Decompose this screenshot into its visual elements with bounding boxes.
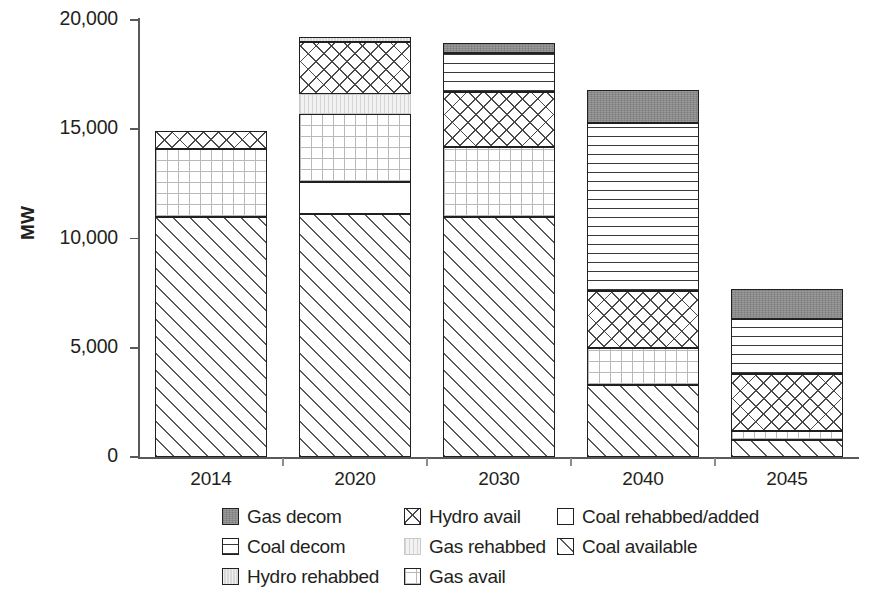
legend-item-gas-decom[interactable]: Gas decom bbox=[222, 503, 341, 530]
legend-swatch-icon bbox=[222, 538, 239, 555]
stacked-bar-chart: MW 05,00010,00015,00020,000 201420202030… bbox=[0, 0, 873, 593]
bar-segment-gas-decom bbox=[587, 90, 699, 123]
bar-segment-gas-rehabbed bbox=[299, 94, 411, 114]
y-axis-tick bbox=[130, 19, 139, 21]
bar-segment-gas-avail bbox=[155, 149, 267, 217]
y-axis-tick-label: 5,000 bbox=[8, 335, 118, 358]
x-axis-tick bbox=[426, 458, 427, 466]
legend-label: Coal decom bbox=[247, 536, 345, 558]
legend-item-hydro-rehabbed[interactable]: Hydro rehabbed bbox=[222, 563, 379, 590]
legend-swatch-icon bbox=[404, 508, 421, 525]
legend-label: Gas rehabbed bbox=[429, 536, 546, 558]
bar-segment-hydro-avail bbox=[731, 374, 843, 431]
x-axis-tick-label: 2040 bbox=[588, 468, 698, 490]
legend-item-coal-decom[interactable]: Coal decom bbox=[222, 533, 345, 560]
legend-item-hydro-avail[interactable]: Hydro avail bbox=[404, 503, 521, 530]
legend-swatch-icon bbox=[222, 568, 239, 585]
y-axis-tick bbox=[130, 456, 139, 458]
bar-segment-coal-decom bbox=[587, 123, 699, 291]
bar-segment-gas-decom bbox=[731, 289, 843, 320]
bar-segment-hydro-avail bbox=[587, 291, 699, 348]
bar-segment-gas-decom bbox=[443, 43, 555, 53]
y-axis-tick-label: 0 bbox=[8, 444, 118, 467]
legend-label: Hydro rehabbed bbox=[247, 566, 379, 588]
bar-segment-coal-decom bbox=[443, 53, 555, 92]
legend-label: Coal available bbox=[582, 536, 697, 558]
bar-segment-coal-decom bbox=[731, 319, 843, 374]
legend-swatch-icon bbox=[557, 538, 574, 555]
legend-label: Gas avail bbox=[429, 566, 506, 588]
bar-segment-gas-avail bbox=[731, 431, 843, 440]
bar-segment-gas-avail bbox=[587, 348, 699, 385]
bar-segment-coal-available bbox=[587, 385, 699, 457]
bar-segment-coal-available bbox=[155, 217, 267, 457]
bar-2030 bbox=[443, 20, 555, 457]
legend-swatch-icon bbox=[222, 508, 239, 525]
bar-segment-coal-rehabbed-added bbox=[299, 182, 411, 215]
y-axis-tick bbox=[130, 238, 139, 240]
legend-item-coal-available[interactable]: Coal available bbox=[557, 533, 697, 560]
x-axis-tick-label: 2030 bbox=[444, 468, 554, 490]
x-axis-tick-label: 2045 bbox=[732, 468, 842, 490]
bar-segment-gas-avail bbox=[443, 147, 555, 217]
bar-segment-hydro-rehabbed bbox=[299, 37, 411, 41]
legend-label: Gas decom bbox=[247, 506, 341, 528]
bar-segment-hydro-avail bbox=[299, 42, 411, 94]
legend-label: Hydro avail bbox=[429, 506, 521, 528]
x-axis-tick-label: 2020 bbox=[300, 468, 410, 490]
legend-swatch-icon bbox=[404, 538, 421, 555]
legend-item-coal-rehabbed-added[interactable]: Coal rehabbed/added bbox=[557, 503, 759, 530]
bar-segment-coal-available bbox=[443, 217, 555, 457]
x-axis-tick-label: 2014 bbox=[156, 468, 266, 490]
x-axis-line bbox=[138, 457, 859, 459]
bar-2014 bbox=[155, 20, 267, 457]
legend-label: Coal rehabbed/added bbox=[582, 506, 759, 528]
legend-swatch-icon bbox=[557, 508, 574, 525]
y-axis-tick-label: 20,000 bbox=[8, 7, 118, 30]
legend-item-gas-rehabbed[interactable]: Gas rehabbed bbox=[404, 533, 546, 560]
bar-2045 bbox=[731, 20, 843, 457]
y-axis-tick bbox=[130, 347, 139, 349]
bar-segment-coal-available bbox=[299, 214, 411, 457]
y-axis-tick-label: 10,000 bbox=[8, 226, 118, 249]
y-axis-tick-label: 15,000 bbox=[8, 116, 118, 139]
legend-item-gas-avail[interactable]: Gas avail bbox=[404, 563, 506, 590]
chart-legend: Gas decomHydro availCoal rehabbed/addedC… bbox=[0, 503, 873, 593]
x-axis-tick bbox=[714, 458, 715, 466]
bar-2020 bbox=[299, 20, 411, 457]
bar-segment-coal-available bbox=[731, 440, 843, 457]
legend-swatch-icon bbox=[404, 568, 421, 585]
y-axis-tick bbox=[130, 128, 139, 130]
x-axis-tick bbox=[570, 458, 571, 466]
bar-segment-hydro-avail bbox=[443, 92, 555, 147]
x-axis-tick bbox=[282, 458, 283, 466]
bar-segment-hydro-avail bbox=[155, 131, 267, 148]
bar-2040 bbox=[587, 20, 699, 457]
bar-segment-gas-avail bbox=[299, 114, 411, 182]
